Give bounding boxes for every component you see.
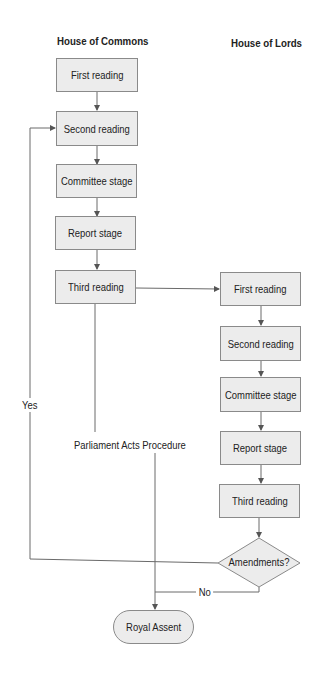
no-label: No: [196, 586, 213, 598]
terminal-royal-assent: Royal Assent: [113, 610, 194, 644]
stage-label: Committee stage: [61, 175, 132, 187]
stage-label: Report stage: [68, 227, 122, 239]
stage-label: Third reading: [68, 281, 124, 293]
stage-label: Third reading: [232, 495, 288, 507]
commons-stage-first-reading: First reading: [56, 58, 138, 92]
column-header-commons: House of Commons: [57, 35, 148, 47]
commons-stage-committee: Committee stage: [56, 164, 137, 198]
stage-label: Second reading: [227, 338, 293, 350]
diagram-title: Parliament Acts Procedure: [74, 439, 186, 451]
lords-stage-second-reading: Second reading: [220, 326, 301, 361]
commons-stage-third-reading: Third reading: [55, 270, 136, 304]
stage-label: First reading: [234, 283, 287, 295]
stage-label: Second reading: [64, 123, 130, 135]
column-header-lords: House of Lords: [231, 37, 302, 49]
stage-label: Report stage: [233, 442, 287, 454]
lords-stage-committee: Committee stage: [220, 377, 301, 412]
yes-label: Yes: [22, 398, 37, 412]
commons-stage-second-reading: Second reading: [56, 111, 138, 146]
lords-stage-report: Report stage: [220, 431, 301, 465]
decision-label: Amendments?: [222, 556, 296, 568]
stage-label: First reading: [71, 69, 124, 81]
lords-stage-third-reading: Third reading: [219, 484, 300, 518]
stage-label: Committee stage: [225, 389, 296, 401]
arrow-commons-to-lords: [136, 288, 219, 289]
lords-stage-first-reading: First reading: [220, 272, 301, 306]
terminal-label: Royal Assent: [126, 621, 181, 633]
commons-stage-report: Report stage: [55, 216, 136, 250]
